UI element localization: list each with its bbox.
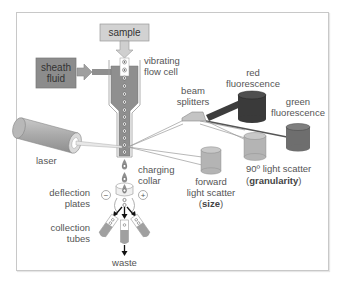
collection-tubes-label: collection (50, 222, 90, 233)
sheath-fluid-box: sheath fluid (36, 58, 76, 88)
sample-label: sample (108, 27, 141, 38)
svg-text:collar: collar (138, 175, 161, 186)
green-fluorescence-detector-icon (286, 124, 310, 152)
negative-plate-icon: − (102, 191, 111, 201)
laser-label: laser (36, 155, 57, 166)
granularity-label: (granularity) (246, 175, 301, 186)
svg-text:+: + (141, 191, 146, 200)
size-label: (size) (199, 198, 223, 209)
laser-beam (76, 141, 122, 148)
positive-plate-icon: + (139, 191, 148, 201)
collection-tube-left-icon (98, 214, 118, 238)
svg-text:splitters: splitters (177, 96, 210, 107)
beam-splitters-label: beam (181, 85, 205, 96)
sample-box: sample (100, 24, 149, 41)
svg-text:flow cell: flow cell (144, 66, 178, 77)
droplets (122, 159, 127, 183)
svg-text:light scatter: light scatter (187, 187, 236, 198)
vibrating-flow-cell (109, 58, 140, 157)
svg-text:tubes: tubes (67, 233, 90, 244)
flow-cytometer-diagram: sample sheath fluid (0, 0, 344, 282)
charging-collar-icon (116, 183, 133, 196)
forward-scatter-detector-icon (201, 147, 221, 174)
beam-splitter-1 (182, 112, 206, 121)
red-fluorescence-detector-icon (238, 91, 266, 123)
waste-arrow-icon (122, 245, 128, 256)
svg-text:fluid: fluid (47, 73, 65, 84)
svg-text:−: − (104, 191, 109, 200)
collection-tube-right-icon (131, 214, 151, 238)
side-scatter-label: 90º light scatter (246, 163, 311, 174)
waste-label: waste (111, 257, 137, 268)
vibrating-label: vibrating (144, 55, 180, 66)
red-light-path (206, 100, 243, 121)
svg-text:sheath: sheath (41, 62, 71, 73)
deflection-arrows (113, 207, 136, 219)
sample-arrow-icon (116, 41, 133, 58)
green-fluorescence-label: green (286, 96, 310, 107)
sheath-arrow-icon (77, 64, 92, 80)
svg-text:plates: plates (65, 198, 91, 209)
charging-collar-label: charging (138, 164, 174, 175)
laser-icon (10, 116, 83, 154)
forward-scatter-label: forward (195, 176, 227, 187)
side-scatter-detector-icon (244, 133, 266, 161)
red-fluorescence-label: red (246, 67, 260, 78)
svg-text:fluorescence: fluorescence (226, 78, 280, 89)
deflection-plates-label: deflection (49, 187, 90, 198)
svg-text:fluorescence: fluorescence (271, 107, 325, 118)
collection-tube-center-icon (121, 220, 129, 244)
